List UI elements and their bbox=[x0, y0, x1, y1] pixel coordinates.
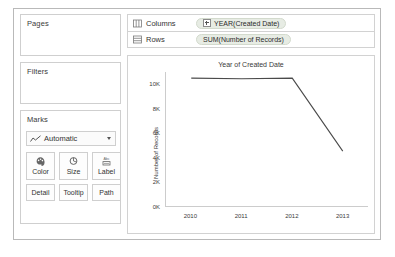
x-axis-ticks: 2010201120122013 bbox=[165, 213, 368, 223]
rows-pill[interactable]: SUM(Number of Records) bbox=[196, 34, 291, 45]
filters-card-title: Filters bbox=[21, 63, 120, 76]
columns-shelf-label: Columns bbox=[146, 19, 196, 28]
data-line[interactable] bbox=[191, 78, 343, 151]
columns-pill[interactable]: YEAR(Created Date) bbox=[196, 18, 286, 29]
marks-type-label: Automatic bbox=[44, 134, 104, 143]
rows-shelf[interactable]: Rows SUM(Number of Records) bbox=[127, 31, 375, 48]
columns-pill-label: YEAR(Created Date) bbox=[214, 20, 279, 27]
marks-tooltip-label: Tooltip bbox=[63, 189, 83, 197]
y-tick-label: 10K bbox=[149, 81, 160, 87]
marks-button-grid: Color Size Abc Label bbox=[26, 152, 118, 201]
marks-color-label: Color bbox=[32, 168, 49, 176]
x-tick-label: 2011 bbox=[235, 213, 248, 219]
columns-shelf[interactable]: Columns YEAR(Created Date) bbox=[127, 14, 375, 31]
marks-label-label: Label bbox=[98, 168, 115, 176]
marks-color-button[interactable]: Color bbox=[26, 152, 55, 180]
svg-text:Abc: Abc bbox=[103, 157, 109, 161]
color-palette-icon bbox=[35, 156, 46, 167]
label-abc-icon: Abc bbox=[101, 156, 112, 167]
marks-detail-button[interactable]: Detail bbox=[26, 184, 55, 201]
y-tick-label: 4K bbox=[153, 155, 160, 161]
line-series[interactable] bbox=[166, 72, 368, 206]
marks-label-button[interactable]: Abc Label bbox=[92, 152, 121, 180]
y-tick-label: 8K bbox=[153, 106, 160, 112]
pages-card-title: Pages bbox=[21, 15, 120, 28]
marks-path-label: Path bbox=[99, 189, 113, 197]
x-tick-label: 2010 bbox=[184, 213, 197, 219]
plot-wrapper: Number of Records 0K2K4K6K8K10K 20102011… bbox=[128, 72, 374, 233]
marks-size-label: Size bbox=[67, 168, 81, 176]
size-circle-icon bbox=[68, 156, 79, 167]
marks-card: Marks Automatic Color bbox=[20, 110, 121, 224]
pages-card[interactable]: Pages bbox=[20, 14, 121, 56]
visualization-pane: Year of Created Date Number of Records 0… bbox=[127, 55, 375, 234]
marks-type-dropdown[interactable]: Automatic bbox=[26, 131, 116, 146]
y-tick-label: 6K bbox=[153, 130, 160, 136]
y-tick-label: 0K bbox=[153, 204, 160, 210]
marks-path-button[interactable]: Path bbox=[92, 184, 121, 201]
line-chart-icon bbox=[30, 135, 41, 143]
tableau-worksheet-window: Pages Filters Marks Automatic bbox=[13, 8, 381, 240]
plot-area[interactable] bbox=[165, 72, 368, 207]
rows-shelf-label: Rows bbox=[146, 35, 196, 44]
main-column: Columns YEAR(Created Date) Rows SUM(Numb… bbox=[127, 14, 375, 234]
marks-size-button[interactable]: Size bbox=[59, 152, 88, 180]
rows-icon bbox=[133, 35, 142, 44]
marks-detail-label: Detail bbox=[32, 189, 50, 197]
x-tick-label: 2012 bbox=[285, 213, 298, 219]
columns-icon bbox=[133, 19, 142, 28]
rows-pill-label: SUM(Number of Records) bbox=[203, 36, 284, 43]
chart-title: Year of Created Date bbox=[128, 56, 374, 68]
x-tick-label: 2013 bbox=[336, 213, 349, 219]
plus-icon[interactable] bbox=[203, 19, 211, 27]
y-tick-label: 2K bbox=[153, 179, 160, 185]
left-shelf-column: Pages Filters Marks Automatic bbox=[20, 14, 121, 234]
filters-card[interactable]: Filters bbox=[20, 62, 121, 104]
marks-card-title: Marks bbox=[21, 111, 120, 124]
marks-tooltip-button[interactable]: Tooltip bbox=[59, 184, 88, 201]
y-axis-ticks: 0K2K4K6K8K10K bbox=[140, 72, 162, 207]
chevron-down-icon[interactable] bbox=[107, 137, 111, 140]
